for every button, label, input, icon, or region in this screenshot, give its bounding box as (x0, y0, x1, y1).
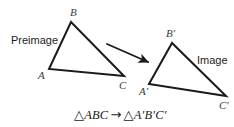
triangle-symbol-right: △ (124, 107, 134, 122)
correspondence-equation: △ABC→△A′B′C′ (74, 108, 167, 122)
preimage-label: Preimage (11, 35, 58, 46)
diagram-canvas: Preimage Image A B C A′ B′ C′ △ABC→△A′B′… (0, 0, 234, 127)
maps-to-arrow-icon: → (108, 107, 123, 122)
vertex-label-A: A (38, 70, 45, 81)
vertex-label-C: C (119, 80, 126, 91)
equation-right-vertices: A′B′C′ (134, 108, 167, 122)
vertex-label-C-prime: C′ (219, 100, 229, 111)
image-label: Image (197, 55, 228, 66)
preimage-triangle-shape (49, 22, 124, 76)
triangle-symbol-left: △ (74, 107, 84, 122)
equation-left-vertices: ABC (84, 108, 108, 122)
image-triangle-shape (149, 43, 226, 96)
vertex-label-B: B (70, 7, 77, 18)
transformation-arrow-icon (107, 44, 148, 62)
vertex-label-A-prime: A′ (139, 86, 148, 97)
vertex-label-B-prime: B′ (166, 28, 175, 39)
